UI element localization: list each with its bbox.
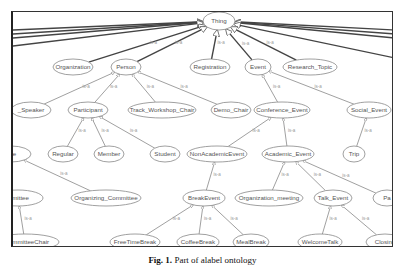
node-conference-event[interactable]: Conference_Event (254, 102, 310, 118)
node-talk-event[interactable]: Talk_Event (314, 190, 352, 206)
node-thing[interactable]: Thing (203, 12, 235, 30)
edge-committee_chair-isa-program_committee (19, 206, 23, 234)
node-panel[interactable]: Pa (373, 190, 393, 206)
edge-label: is-a (267, 40, 275, 45)
node-label: Organizing_Committee (74, 194, 138, 201)
edge-label: is-a (175, 40, 183, 45)
nodes-layer: ThingOrganizationPersonRegistrationEvent… (13, 12, 393, 247)
node-organization[interactable]: Organization (53, 59, 93, 75)
node-label: Social_Event (351, 106, 387, 113)
edge-label: is-a (288, 128, 296, 133)
node-label: Academic_Event (265, 150, 312, 157)
node-label: Closing (375, 238, 393, 245)
caption-text: Part of alabel ontology (172, 255, 256, 265)
edge-free_time_break-isa-break_event (146, 205, 193, 235)
edge-non_academic_event-isa-conference_event (228, 117, 271, 146)
edge-label: is-a (217, 40, 225, 45)
node-label: Research_Topic (288, 63, 332, 70)
node-label: NonAcademicEvent (190, 150, 245, 157)
node-label: FreeTimeBreak (114, 238, 157, 245)
node-closing[interactable]: Closing (366, 234, 393, 247)
edge-research_topic-isa-thing (231, 27, 296, 60)
node-break-event[interactable]: BreakEvent (183, 190, 225, 206)
node-label: _Speaker (17, 106, 45, 113)
node-label: Talk_Event (318, 194, 349, 201)
edge-label: is-a (82, 84, 90, 89)
node-meal-break[interactable]: MealBreak (233, 234, 269, 247)
node-label: Pa (383, 194, 391, 201)
edge-label: is-a (102, 128, 110, 133)
node-label: Person (116, 63, 136, 70)
node-welcome-talk[interactable]: WelcomeTalk (298, 234, 342, 247)
edge-speaker-isa-person (44, 72, 114, 104)
node-regular[interactable]: Regular (48, 146, 78, 162)
edge-label: is-a (110, 84, 118, 89)
edge-label: is-a (147, 84, 155, 89)
edge-label: is-a (180, 84, 188, 89)
ontology-graph-canvas: is-ais-ais-ais-ais-ais-ais-ais-ais-ais-a… (13, 12, 393, 247)
node-label: BreakEvent (188, 194, 220, 201)
node-committee[interactable]: ttee (13, 146, 31, 162)
ontology-diagram: is-ais-ais-ais-ais-ais-ais-ais-ais-ais-a… (11, 11, 393, 247)
node-member[interactable]: Member (94, 146, 124, 162)
node-non-academic-event[interactable]: NonAcademicEvent (187, 146, 247, 162)
edge-academic_event-isa-conference_event (283, 118, 287, 146)
node-free-time-break[interactable]: FreeTimeBreak (110, 234, 160, 247)
node-label: Event (250, 63, 266, 70)
node-event[interactable]: Event (245, 59, 271, 75)
edge-label: is-a (253, 128, 261, 133)
edge-label: is-a (60, 171, 68, 176)
edge-label: is-a (342, 173, 350, 178)
edge-talk_event-isa-academic_event (296, 162, 326, 191)
edge-offscreen-to-thing (13, 22, 203, 34)
node-label: Demo_Chair (214, 106, 249, 113)
node-academic-event[interactable]: Academic_Event (262, 146, 314, 162)
node-coffee-break[interactable]: CoffeeBreak (177, 234, 219, 247)
edge-label: is-a (282, 172, 290, 177)
node-label: Conference_Event (256, 106, 308, 113)
node-label: WelcomeTalk (302, 238, 340, 245)
edge-label: is-a (150, 40, 158, 45)
node-research-topic[interactable]: Research_Topic (283, 59, 337, 75)
edge-coffee_break-isa-break_event (199, 206, 203, 234)
edge-organizing_committee-isa-committee (24, 160, 90, 191)
node-trip[interactable]: Trip (343, 146, 365, 162)
node-label: Track_Workshop_Chair (130, 106, 195, 113)
edge-offscreen-to-thing (235, 23, 393, 38)
node-demo-chair[interactable]: Demo_Chair (211, 102, 251, 118)
edge-label: is-a (130, 128, 138, 133)
node-label: Student (154, 150, 176, 157)
edge-label: is-a (314, 172, 322, 177)
node-speaker[interactable]: _Speaker (13, 102, 51, 118)
node-social-event[interactable]: Social_Event (347, 102, 391, 118)
node-label: Member (98, 150, 121, 157)
node-organization-meeting[interactable]: Organization_meeting (235, 190, 303, 206)
node-label: Organization_meeting (239, 194, 300, 201)
edge-label: is-a (314, 84, 322, 89)
edge-social_event-isa-event (269, 71, 354, 104)
figure-caption: Fig. 1. Part of alabel ontology (0, 255, 405, 265)
node-label: CoffeeBreak (181, 238, 216, 245)
node-person[interactable]: Person (111, 59, 141, 75)
edge-registration-isa-thing (212, 30, 218, 59)
edge-label: is-a (330, 216, 338, 221)
edge-closing-isa-talk_event (341, 205, 376, 235)
caption-label: Fig. 1. (148, 255, 172, 265)
node-label: Registration (193, 63, 227, 70)
node-program-committee[interactable]: mmittee (13, 190, 43, 206)
node-student[interactable]: Student (150, 146, 180, 162)
node-participant[interactable]: Participant (68, 102, 108, 118)
node-organizing-committee[interactable]: Organizing_Committee (71, 190, 141, 206)
node-track-workshop-chair[interactable]: Track_Workshop_Chair (128, 102, 196, 118)
node-label: Thing (211, 17, 227, 24)
edge-label: is-a (24, 216, 32, 221)
edge-meal_break-isa-break_event (212, 205, 243, 234)
node-label: MealBreak (236, 238, 266, 245)
edge-label: is-a (173, 216, 181, 221)
edge-label: is-a (273, 84, 281, 89)
node-committee-chair[interactable]: nCommitteeChair (13, 234, 59, 247)
node-label: mmittee (13, 194, 30, 201)
node-label: Participant (73, 106, 103, 113)
edge-label: is-a (364, 128, 372, 133)
node-registration[interactable]: Registration (190, 59, 230, 75)
